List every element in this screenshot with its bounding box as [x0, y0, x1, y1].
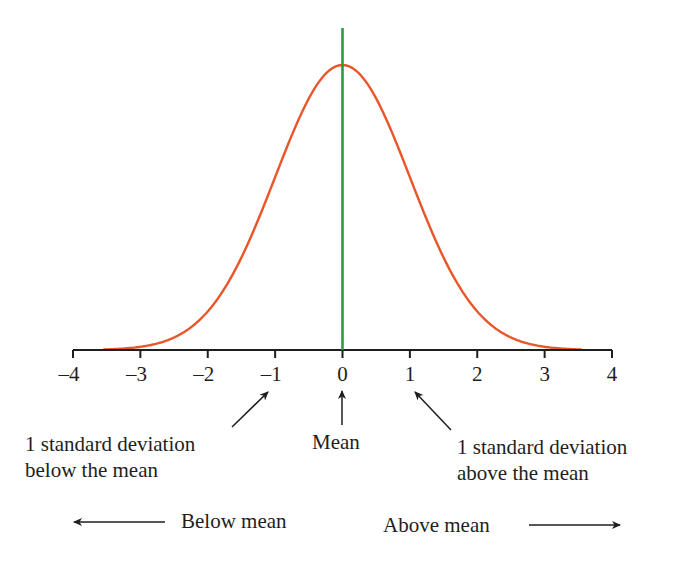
below-mean-label: Below mean [181, 508, 287, 534]
x-tick-label: 0 [337, 362, 348, 387]
x-tick-label: –2 [193, 362, 214, 387]
sd-above-line2: above the mean [457, 460, 627, 486]
x-tick-label: –1 [261, 362, 282, 387]
mean-label: Mean [312, 429, 360, 455]
x-tick-label: 2 [472, 362, 483, 387]
sd-above-arrow-icon [415, 392, 451, 430]
x-tick-label: 4 [607, 362, 618, 387]
x-axis-ticks [73, 350, 612, 358]
sd-below-arrow-icon [232, 392, 268, 427]
x-tick-label: 1 [405, 362, 416, 387]
sd-below-label: 1 standard deviation below the mean [25, 431, 195, 483]
sd-above-label: 1 standard deviation above the mean [457, 434, 627, 486]
x-tick-label: –4 [59, 362, 80, 387]
x-tick-label: 3 [539, 362, 550, 387]
above-mean-label: Above mean [383, 512, 490, 538]
sd-above-line1: 1 standard deviation [457, 434, 627, 460]
sd-below-line1: 1 standard deviation [25, 431, 195, 457]
sd-below-line2: below the mean [25, 457, 195, 483]
x-tick-label: –3 [126, 362, 147, 387]
